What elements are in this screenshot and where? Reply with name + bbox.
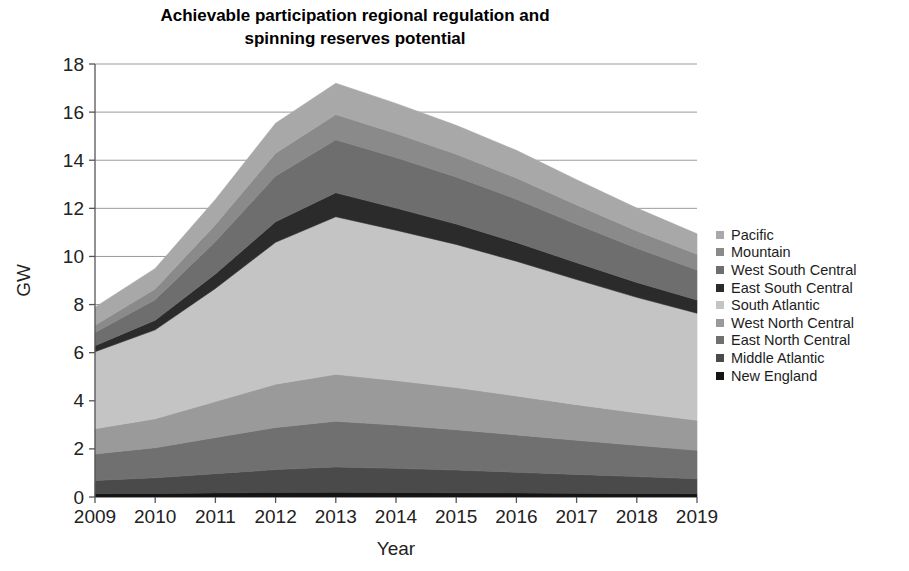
y-tick-label-14: 14 xyxy=(63,150,85,171)
y-tick-label-12: 12 xyxy=(63,198,84,219)
legend-item[interactable]: Mountain xyxy=(716,244,906,262)
x-tick-label-2012: 2012 xyxy=(254,506,296,527)
legend-item-label: New England xyxy=(731,368,817,384)
x-tick-label-2015: 2015 xyxy=(435,506,477,527)
x-tick-label-2014: 2014 xyxy=(375,506,418,527)
y-tick-label-6: 6 xyxy=(73,342,84,363)
y-tick-label-4: 4 xyxy=(73,390,84,411)
chart-container: Achievable participation regional regula… xyxy=(0,0,909,571)
legend-item[interactable]: South Atlantic xyxy=(716,296,906,314)
legend-item-label: Middle Atlantic xyxy=(731,350,825,366)
chart-legend: PacificMountainWest South CentralEast So… xyxy=(716,226,906,384)
legend-swatch-icon xyxy=(716,284,724,292)
x-tick-label-2013: 2013 xyxy=(315,506,357,527)
legend-swatch-icon xyxy=(716,248,724,256)
legend-item[interactable]: East North Central xyxy=(716,332,906,350)
legend-item-label: West South Central xyxy=(731,262,856,278)
y-axis-title: GW xyxy=(13,264,34,297)
y-tick-label-10: 10 xyxy=(63,246,84,267)
legend-swatch-icon xyxy=(716,354,724,362)
legend-item-label: Pacific xyxy=(731,227,774,243)
y-tick-label-8: 8 xyxy=(73,294,84,315)
legend-item[interactable]: New England xyxy=(716,367,906,385)
legend-item[interactable]: Middle Atlantic xyxy=(716,349,906,367)
legend-swatch-icon xyxy=(716,301,724,309)
legend-swatch-icon xyxy=(716,336,724,344)
x-tick-label-2016: 2016 xyxy=(495,506,537,527)
x-tick-label-2019: 2019 xyxy=(676,506,718,527)
x-tick-label-2009: 2009 xyxy=(74,506,116,527)
y-tick-label-2: 2 xyxy=(73,438,84,459)
x-tick-label-2010: 2010 xyxy=(134,506,176,527)
legend-item-label: South Atlantic xyxy=(731,297,820,313)
legend-swatch-icon xyxy=(716,231,724,239)
legend-item-label: Mountain xyxy=(731,244,791,260)
legend-item-label: East North Central xyxy=(731,332,850,348)
x-tick-label-2018: 2018 xyxy=(616,506,658,527)
legend-item[interactable]: West North Central xyxy=(716,314,906,332)
legend-swatch-icon xyxy=(716,372,724,380)
x-axis-title: Year xyxy=(377,538,416,559)
x-tick-label-2017: 2017 xyxy=(555,506,597,527)
y-tick-label-0: 0 xyxy=(73,487,84,508)
y-tick-label-16: 16 xyxy=(63,102,84,123)
legend-item-label: East South Central xyxy=(731,280,853,296)
legend-item[interactable]: Pacific xyxy=(716,226,906,244)
x-tick-label-2011: 2011 xyxy=(195,506,236,527)
legend-item[interactable]: East South Central xyxy=(716,279,906,297)
legend-item[interactable]: West South Central xyxy=(716,261,906,279)
legend-item-label: West North Central xyxy=(731,315,854,331)
y-tick-label-18: 18 xyxy=(63,54,84,75)
legend-swatch-icon xyxy=(716,319,724,327)
legend-swatch-icon xyxy=(716,266,724,274)
